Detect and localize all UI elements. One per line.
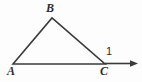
vertex-label-c: C — [100, 65, 108, 77]
vertex-label-a: A — [7, 65, 15, 77]
angle-label-1: 1 — [106, 45, 112, 57]
figure-background — [0, 0, 142, 82]
figure-canvas — [0, 0, 142, 82]
vertex-label-b: B — [46, 2, 54, 14]
geometry-figure: A B C 1 — [0, 0, 142, 82]
